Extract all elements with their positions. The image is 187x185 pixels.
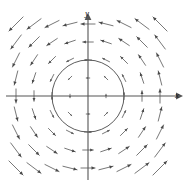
vector-arrow [30, 55, 37, 66]
vector-arrow [32, 73, 36, 84]
vector-arrow-head-icon [158, 89, 161, 93]
vector-arrow-head-icon [141, 91, 144, 94]
vector-arrow [135, 163, 149, 174]
vector-arrow-head-icon [34, 133, 37, 137]
vector-arrow [47, 38, 58, 45]
vector-arrow-head-icon [72, 149, 76, 152]
vector-arrow-head-icon [37, 170, 41, 173]
vector-arrow-head-icon [159, 107, 162, 111]
vector-arrow [12, 125, 19, 139]
vector-arrow [9, 161, 23, 175]
vector-arrow [63, 22, 77, 26]
vector-arrow [158, 71, 162, 85]
vector-arrow [119, 146, 130, 153]
vector-arrow [27, 19, 41, 30]
vector-arrow [66, 130, 73, 134]
vector-arrow [45, 20, 59, 27]
vector-arrow-head-icon [73, 167, 77, 170]
vector-arrow-head-icon [63, 23, 67, 26]
vector-arrow-head-icon [15, 117, 18, 121]
vector-arrow-head-icon [145, 163, 149, 166]
vector-arrow-head-icon [27, 26, 31, 29]
vector-arrow-head-icon [11, 45, 14, 49]
vector-arrow [99, 22, 113, 26]
vector-arrow [30, 127, 37, 138]
vector-arrow-head-icon [65, 41, 69, 44]
x-axis-label: x [175, 91, 179, 100]
vector-arrow [65, 148, 76, 152]
vector-arrow [153, 17, 167, 31]
vector-arrow-head-icon [91, 166, 95, 169]
vector-arrow-head-icon [119, 38, 123, 41]
vector-arrow-head-icon [141, 109, 144, 113]
vector-arrow [47, 146, 58, 153]
vector-arrow [153, 161, 167, 175]
vector-arrow [68, 76, 72, 80]
vector-arrow [117, 164, 131, 171]
vector-arrow [137, 37, 148, 48]
vector-arrow [158, 107, 162, 121]
vector-arrow-head-icon [90, 149, 93, 152]
vector-arrow [140, 109, 144, 120]
vector-arrow-head-icon [32, 80, 35, 84]
vector-arrow [12, 53, 19, 67]
vector-arrow [102, 58, 109, 62]
vector-arrow [122, 74, 126, 81]
vector-arrow-head-icon [108, 148, 112, 151]
vector-arrow [65, 40, 76, 44]
vector-arrow [117, 20, 131, 27]
vector-arrow [45, 164, 59, 171]
vector-arrow [68, 112, 72, 116]
vector-arrow [122, 110, 126, 117]
vector-arrow-head-icon [158, 71, 161, 75]
vector-arrow-head-icon [101, 40, 105, 43]
vector-arrow [155, 143, 166, 157]
vector-arrow [11, 35, 22, 49]
vector-arrow-head-icon [81, 22, 85, 25]
vector-arrow [9, 17, 23, 31]
vector-arrow [63, 166, 77, 170]
vector-arrow-head-icon [155, 35, 158, 39]
vector-arrow [120, 56, 127, 63]
vector-arrow [48, 128, 55, 135]
vector-arrow [138, 127, 145, 138]
vector-arrow-head-icon [125, 146, 129, 149]
vector-arrow [29, 145, 40, 156]
vector-arrow [119, 38, 130, 45]
vector-arrow-head-icon [138, 55, 141, 59]
vector-field-plot [0, 0, 187, 185]
vector-arrow [101, 40, 112, 44]
y-axis-label: y [85, 9, 89, 18]
vector-field-figure: y x [0, 0, 187, 185]
vector-arrow [11, 143, 22, 157]
vector-arrow [32, 109, 36, 120]
vector-arrow [104, 112, 108, 116]
vector-arrow [140, 73, 144, 84]
vector-arrow-head-icon [47, 42, 51, 45]
vector-arrow-head-icon [18, 153, 21, 157]
vector-arrow [29, 37, 40, 48]
vector-arrow [14, 71, 18, 85]
vector-arrow [104, 76, 108, 80]
vector-arrow [137, 145, 148, 156]
vector-arrow-head-icon [142, 127, 145, 131]
vector-arrow-head-icon [14, 81, 17, 85]
vector-arrow [14, 107, 18, 121]
vector-arrow-head-icon [140, 73, 143, 77]
vector-arrow [156, 125, 163, 139]
vector-arrow-head-icon [33, 116, 36, 120]
vector-arrow-head-icon [83, 41, 86, 44]
vector-arrow [102, 130, 109, 134]
vector-arrow-head-icon [30, 61, 33, 65]
vector-arrow [155, 35, 166, 49]
vector-arrow-head-icon [99, 22, 103, 25]
vector-arrow [50, 110, 54, 117]
vector-arrow [66, 58, 73, 62]
vector-arrow-head-icon [109, 166, 113, 169]
vector-arrow [156, 53, 163, 67]
vector-arrow [27, 163, 41, 174]
vector-arrow-head-icon [14, 99, 17, 103]
vector-arrow-head-icon [53, 150, 57, 153]
vector-arrow-head-icon [33, 98, 36, 101]
vector-arrow [99, 166, 113, 170]
